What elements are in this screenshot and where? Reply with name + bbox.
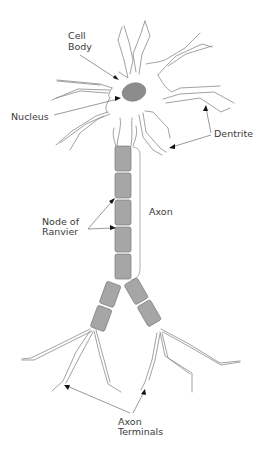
axon-terminals-pointer (64, 385, 146, 413)
right-branch-myelin (124, 278, 161, 327)
label-axon-terminals-line2: Terminals (117, 426, 163, 437)
label-cell-body-line1: Cell (68, 30, 86, 41)
label-axon: Axon (149, 206, 173, 217)
nucleus (120, 80, 148, 104)
cell-body-pointer (80, 55, 119, 80)
label-nucleus: Nucleus (11, 111, 49, 122)
label-node-of-ranvier-line2: Ranvier (42, 226, 78, 237)
neuron-diagram: Cell Body Nucleus Dentrite Axon Node of … (0, 0, 265, 451)
label-cell-body-line2: Body (68, 41, 92, 52)
nucleus-pointer (54, 96, 121, 115)
label-dentrite: Dentrite (214, 128, 253, 139)
left-branch-myelin (90, 281, 121, 332)
dentrite-pointer (169, 105, 211, 149)
axon-terminals-right (141, 329, 240, 392)
axon-myelin-sheath (115, 146, 131, 279)
node-of-ranvier-pointer (88, 198, 116, 230)
axon-terminals-left (22, 329, 121, 392)
axon-bracket (131, 147, 140, 280)
